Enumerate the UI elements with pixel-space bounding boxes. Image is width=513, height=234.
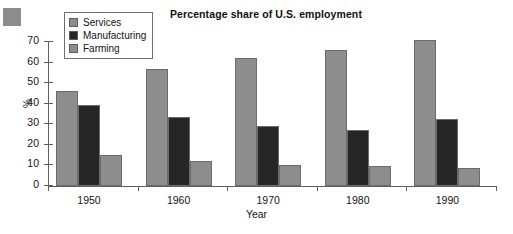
- x-tick: [496, 186, 497, 191]
- x-tick-label: 1980: [325, 194, 391, 206]
- bar-services-1990: [414, 40, 436, 186]
- y-tick: 20: [44, 144, 53, 145]
- y-tick-label: 0: [33, 178, 39, 191]
- x-tick-label: 1970: [235, 194, 301, 206]
- x-axis-title: Year: [0, 208, 513, 220]
- bar-manufacturing-1970: [257, 126, 279, 186]
- legend-item-manufacturing: Manufacturing: [69, 29, 146, 42]
- x-axis-line: [48, 186, 496, 187]
- legend-item-farming: Farming: [69, 42, 146, 55]
- x-tick: [138, 186, 139, 191]
- legend-label-farming: Farming: [83, 43, 120, 54]
- y-tick: 60: [44, 62, 53, 63]
- decorative-square: [3, 8, 21, 26]
- bar-group: 1990: [414, 42, 480, 186]
- y-tick: 30: [44, 123, 53, 124]
- x-tick-label: 1960: [146, 194, 212, 206]
- y-tick-label: 10: [27, 157, 39, 170]
- x-tick: [406, 186, 407, 191]
- bar-farming-1970: [279, 165, 301, 186]
- y-tick: 10: [44, 164, 53, 165]
- bar-manufacturing-1950: [78, 105, 100, 186]
- y-tick: 40: [44, 103, 53, 104]
- bar-group: 1950: [56, 42, 122, 186]
- bar-farming-1960: [190, 161, 212, 186]
- y-tick-label: 30: [27, 116, 39, 129]
- plot-area: 010203040506070 19501960197019801990: [48, 42, 496, 186]
- y-tick-label: 40: [27, 96, 39, 109]
- y-tick-label: 70: [27, 34, 39, 47]
- bar-manufacturing-1980: [347, 130, 369, 186]
- y-tick-label: 50: [27, 75, 39, 88]
- bar-group: 1970: [235, 42, 301, 186]
- bar-farming-1990: [458, 168, 480, 187]
- chart-legend: Services Manufacturing Farming: [64, 12, 153, 59]
- legend-label-services: Services: [83, 17, 121, 28]
- legend-swatch-manufacturing: [69, 31, 78, 40]
- bar-farming-1950: [100, 155, 122, 186]
- x-tick-label: 1950: [56, 194, 122, 206]
- bar-services-1970: [235, 58, 257, 186]
- legend-swatch-services: [69, 18, 78, 27]
- bar-manufacturing-1990: [436, 119, 458, 186]
- bar-group: 1960: [146, 42, 212, 186]
- legend-label-manufacturing: Manufacturing: [83, 30, 146, 41]
- x-tick: [48, 186, 49, 191]
- bar-services-1960: [146, 69, 168, 186]
- bar-services-1950: [56, 91, 78, 186]
- bar-manufacturing-1960: [168, 117, 190, 186]
- y-tick: 70: [44, 41, 53, 42]
- chart-figure: Percentage share of U.S. employment Serv…: [0, 0, 513, 234]
- y-tick-label: 20: [27, 137, 39, 150]
- x-tick: [317, 186, 318, 191]
- legend-swatch-farming: [69, 44, 78, 53]
- bar-farming-1980: [369, 166, 391, 186]
- y-tick: 50: [44, 82, 53, 83]
- x-tick-label: 1990: [414, 194, 480, 206]
- bar-group: 1980: [325, 42, 391, 186]
- chart-title: Percentage share of U.S. employment: [170, 8, 430, 20]
- bar-services-1980: [325, 50, 347, 186]
- legend-item-services: Services: [69, 16, 146, 29]
- y-tick-label: 60: [27, 55, 39, 68]
- x-tick: [227, 186, 228, 191]
